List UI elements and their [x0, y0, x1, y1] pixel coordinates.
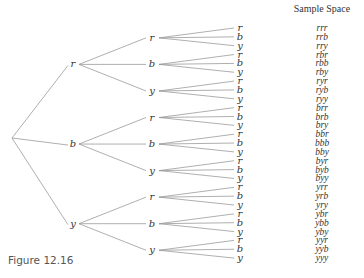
sample-space-outcome: yyy: [315, 253, 329, 263]
edge-l2-to-l3: [159, 171, 234, 179]
edge-l1-to-l2: [79, 224, 146, 251]
edge-l2-to-l3: [159, 214, 234, 224]
node-l3: y: [236, 252, 243, 263]
edge-l1-to-l2: [79, 144, 146, 171]
edge-l1-to-l2: [79, 197, 146, 224]
node-l2: b: [149, 138, 155, 149]
edge-l2-to-l3: [159, 134, 234, 144]
edge-l2-to-l3: [159, 64, 234, 72]
edge-l1-to-l2: [79, 38, 146, 65]
node-l2: r: [150, 191, 156, 202]
edge-l2-to-l3: [159, 37, 234, 38]
edge-l2-to-l3: [159, 63, 234, 64]
node-l2: b: [149, 218, 155, 229]
sample-space-header: Sample Space: [294, 3, 351, 14]
edge-l2-to-l3: [159, 108, 234, 118]
edge-l2-to-l3: [159, 55, 234, 65]
edge-l2-to-l3: [159, 170, 234, 171]
edge-l2-to-l3: [159, 240, 234, 250]
edge-l1-to-l2: [79, 118, 146, 145]
edge-l2-to-l3: [159, 117, 234, 118]
node-l2: y: [148, 244, 155, 255]
figure-caption: Figure 12.16: [8, 254, 74, 266]
edge-root-to-l1: [12, 138, 68, 225]
edge-root-to-l1: [12, 65, 68, 138]
edge-l2-to-l3: [159, 91, 234, 99]
edge-l2-to-l3: [159, 223, 234, 224]
edge-l2-to-l3: [159, 143, 234, 144]
edge-l2-to-l3: [159, 187, 234, 197]
node-l2: b: [149, 58, 155, 69]
node-l1: b: [70, 138, 76, 149]
edge-l2-to-l3: [159, 196, 234, 197]
edge-l2-to-l3: [159, 161, 234, 171]
edge-l1-to-l2: [79, 64, 146, 91]
node-l1: r: [71, 58, 77, 69]
tree-edges: [12, 28, 234, 258]
node-l1: y: [69, 218, 76, 229]
edge-l2-to-l3: [159, 197, 234, 205]
node-l2: y: [148, 85, 155, 96]
edge-l2-to-l3: [159, 90, 234, 91]
node-l2: r: [150, 32, 156, 43]
edge-root-to-l1: [12, 138, 68, 145]
edge-l2-to-l3: [159, 250, 234, 258]
sample-space-column: rrrrrbrryrbrrbbrbyryrrybryybrrbrbbrybbrb…: [314, 23, 330, 263]
edge-l2-to-l3: [159, 81, 234, 91]
edge-l2-to-l3: [159, 28, 234, 38]
node-l2: r: [150, 112, 156, 123]
edge-l2-to-l3: [159, 224, 234, 232]
edge-l2-to-l3: [159, 249, 234, 250]
edge-l2-to-l3: [159, 118, 234, 126]
node-l2: y: [148, 165, 155, 176]
tree-diagram: rbyrbyrbyrbyrbyrbyrbyrbyrbyrbyrbyrbyrby …: [0, 0, 364, 278]
edge-l2-to-l3: [159, 144, 234, 152]
edge-l2-to-l3: [159, 38, 234, 46]
